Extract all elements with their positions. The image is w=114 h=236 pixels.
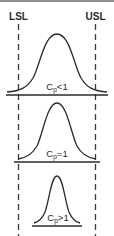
cp-capability-diagram: LSL USL Cp<1 Cp=1 Cp>1 <box>0 0 114 236</box>
curve-group-cp-gt-1: Cp>1 <box>32 176 82 226</box>
cp-gt-1-label: Cp>1 <box>47 212 68 225</box>
cp-eq-1-label: Cp=1 <box>46 148 67 161</box>
lsl-label: LSL <box>9 11 28 22</box>
curve-group-cp-eq-1: Cp=1 <box>14 103 100 162</box>
cp-lt-1-label: Cp<1 <box>46 81 67 94</box>
curve-group-cp-lt-1: Cp<1 <box>6 34 108 95</box>
usl-label: USL <box>86 11 106 22</box>
